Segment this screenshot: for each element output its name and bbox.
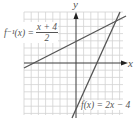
inverse-numerator: x + 4: [36, 22, 58, 33]
f-function-label: f(x) = 2x − 4: [81, 100, 130, 110]
y-axis-arrow-icon: [74, 12, 79, 19]
inverse-fraction: x + 4 2: [36, 22, 58, 43]
inverse-denominator: 2: [45, 33, 50, 43]
x-axis-arrow-icon: [121, 61, 128, 66]
y-axis-label: y: [73, 0, 78, 10]
x-axis-label: x: [128, 57, 133, 69]
inverse-function-label: f⁻¹(x) = x + 4 2: [4, 22, 58, 43]
inverse-lhs: f⁻¹(x) =: [4, 27, 34, 38]
